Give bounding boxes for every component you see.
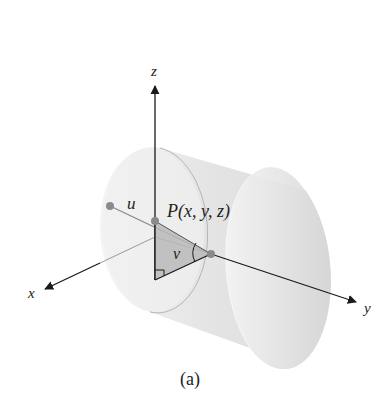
v-label: v: [173, 245, 181, 262]
z-axis-label: z: [150, 63, 157, 79]
figure-caption: (a): [180, 369, 200, 390]
u-label: u: [127, 194, 136, 213]
y-axis-label: y: [362, 300, 371, 316]
x-axis-label: x: [27, 285, 35, 301]
point-P: [151, 217, 159, 225]
point-y-axis: [207, 250, 215, 258]
cylinder-coordinates-diagram: z x y u v P(x, y, z) (a): [0, 0, 390, 395]
x-axis: [45, 263, 100, 289]
point-u-end: [106, 202, 114, 210]
point-P-label: P(x, y, z): [166, 201, 230, 222]
